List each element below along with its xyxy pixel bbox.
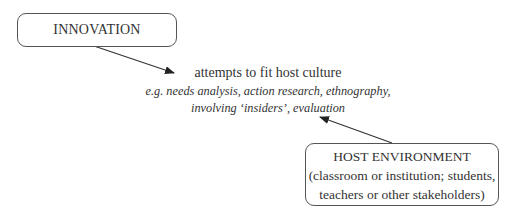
host-line2: (classroom or institution; students, <box>306 166 498 185</box>
host-title: HOST ENVIRONMENT <box>306 147 498 166</box>
host-line3: teachers or other stakeholders) <box>306 185 498 204</box>
center-examples-line1: e.g. needs analysis, action research, et… <box>140 84 396 99</box>
center-main-text: attempts to fit host culture <box>140 65 396 81</box>
innovation-label: INNOVATION <box>53 22 140 37</box>
center-examples-line2: involving ‘insiders’, evaluation <box>140 101 396 116</box>
innovation-box: INNOVATION <box>17 13 177 47</box>
host-environment-box: HOST ENVIRONMENT (classroom or instituti… <box>305 143 499 206</box>
arrow-host-to-center <box>320 117 392 143</box>
